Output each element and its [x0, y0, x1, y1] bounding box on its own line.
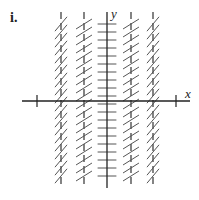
slope-segment [147, 129, 159, 143]
panel-label: i. [10, 10, 17, 26]
slope-segment [55, 41, 67, 55]
slope-segment [55, 97, 67, 111]
slope-segment [147, 97, 159, 111]
slope-field-diagram [0, 0, 199, 200]
axes [22, 12, 190, 188]
slope-segment [55, 129, 67, 143]
slope-segment [147, 41, 159, 55]
x-axis-label: x [185, 86, 191, 102]
y-axis-label: y [111, 6, 117, 22]
